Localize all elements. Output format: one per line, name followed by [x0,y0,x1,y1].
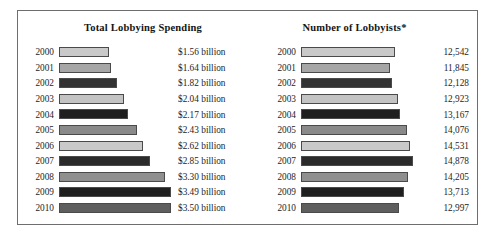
bar-track [59,201,173,217]
bar-row: 200111,845 [246,61,477,77]
bar-row: 200614,531 [246,139,477,155]
bar-track [301,92,413,108]
bar-row-year-label: 2009 [18,188,59,197]
bar-row: 2009$3.49 billion [18,185,246,201]
bar-row-value-label: 14,076 [413,126,477,135]
bar-row-year-label: 2008 [246,173,301,182]
bar-track [59,123,173,139]
bar-row-value-label: $1.64 billion [173,64,246,73]
bar [301,125,407,135]
bar [59,94,124,104]
bar-track [301,170,413,186]
bar-row: 200814,205 [246,170,477,186]
bar [59,125,137,135]
bar-row-year-label: 2000 [246,48,301,57]
bar-row: 2007$2.85 billion [18,154,246,170]
bar-row-value-label: 12,997 [413,204,477,213]
bar-row-year-label: 2006 [246,142,301,151]
bar-row-year-label: 2008 [18,173,59,182]
bar-row: 200413,167 [246,107,477,123]
bar [301,78,392,88]
chart-title-right: Number of Lobbyists* [246,22,477,33]
bar-row-year-label: 2010 [246,204,301,213]
bar-row-year-label: 2002 [246,79,301,88]
bar-row-value-label: $2.62 billion [173,142,246,151]
bar-row: 2000$1.56 billion [18,45,246,61]
bar-row: 2010$3.50 billion [18,201,246,217]
bar-row: 200913,713 [246,185,477,201]
bar-track [301,123,413,139]
bar [301,141,410,151]
bar-row-year-label: 2005 [18,126,59,135]
bar-row-value-label: 13,713 [413,188,477,197]
bar-row-year-label: 2003 [246,95,301,104]
bar-track [59,170,173,186]
chart-panel-total-lobbying-spending: Total Lobbying Spending 2000$1.56 billio… [18,11,246,224]
bar-row: 200514,076 [246,123,477,139]
bar-track [59,107,173,123]
bar-row: 2006$2.62 billion [18,139,246,155]
bar [59,172,165,182]
bar-row-year-label: 2009 [246,188,301,197]
bar [301,187,404,197]
bar-row: 2003$2.04 billion [18,92,246,108]
bar-row: 2008$3.30 billion [18,170,246,186]
bar-row-value-label: 14,878 [413,157,477,166]
bar [301,109,400,119]
bar-track [301,139,413,155]
bar-row-year-label: 2007 [246,157,301,166]
bar [59,78,117,88]
bar [59,156,150,166]
bar-row: 2004$2.17 billion [18,107,246,123]
bar-row: 200312,923 [246,92,477,108]
bar-rows-right: 200012,542200111,845200212,128200312,923… [246,45,477,217]
bar-row-year-label: 2010 [18,204,59,213]
bar-row-value-label: $3.50 billion [173,204,246,213]
bar-row-value-label: $2.17 billion [173,111,246,120]
bar-row-year-label: 2007 [18,157,59,166]
bar [301,63,390,73]
bar-row: 2002$1.82 billion [18,76,246,92]
bar-row-value-label: $2.43 billion [173,126,246,135]
bar-row-year-label: 2005 [246,126,301,135]
chart-figure-frame: Total Lobbying Spending 2000$1.56 billio… [17,10,478,225]
bar-row-year-label: 2001 [18,64,59,73]
bar [59,203,171,213]
bar-row-year-label: 2000 [18,48,59,57]
bar-row-value-label: $3.49 billion [173,188,246,197]
bar-rows-left: 2000$1.56 billion2001$1.64 billion2002$1… [18,45,246,217]
bar-row-value-label: $2.04 billion [173,95,246,104]
bar-row: 200714,878 [246,154,477,170]
bar-row: 201012,997 [246,201,477,217]
chart-panel-number-of-lobbyists: Number of Lobbyists* 200012,542200111,84… [246,11,477,224]
bar-row-year-label: 2004 [18,111,59,120]
bar-track [59,139,173,155]
bar-track [301,45,413,61]
bar-track [59,76,173,92]
bar [301,203,399,213]
bar-row-value-label: 11,845 [413,64,477,73]
chart-panels: Total Lobbying Spending 2000$1.56 billio… [18,11,477,224]
bar [301,94,398,104]
bar [59,47,109,57]
bar [59,187,171,197]
bar-track [59,45,173,61]
bar-track [59,185,173,201]
bar-track [59,61,173,77]
bar-row-value-label: 14,205 [413,173,477,182]
bar-row-value-label: 14,531 [413,142,477,151]
bar-track [301,201,413,217]
bar-row-value-label: $2.85 billion [173,157,246,166]
bar-row-year-label: 2004 [246,111,301,120]
bar [301,156,413,166]
bar-row: 2005$2.43 billion [18,123,246,139]
bar-row-value-label: 13,167 [413,111,477,120]
bar-row: 2001$1.64 billion [18,61,246,77]
bar-row: 200212,128 [246,76,477,92]
bar-track [301,154,413,170]
bar-row-value-label: 12,542 [413,48,477,57]
bar-track [301,107,413,123]
bar-track [59,92,173,108]
bar-row-year-label: 2006 [18,142,59,151]
bar-track [301,76,413,92]
